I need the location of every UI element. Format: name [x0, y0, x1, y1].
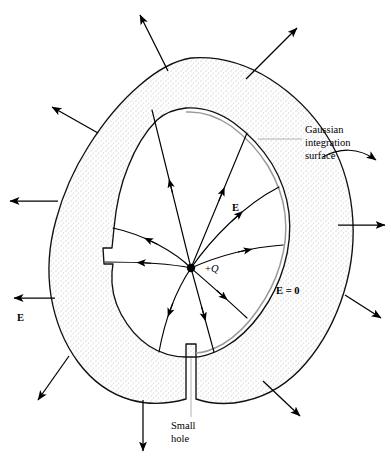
- charge-label: +Q: [205, 263, 219, 274]
- figure-root: Gaussian integration surface Small hole …: [0, 0, 391, 462]
- field-line-up-right-arrowhead: [219, 191, 223, 200]
- gaussian-label-line3: surface: [305, 150, 336, 161]
- field-line-upper-right-curve-arrowhead: [232, 214, 239, 221]
- small-hole-label-line2: hole: [171, 433, 189, 444]
- ext-arrow-top-right: [246, 28, 297, 79]
- ext-arrow-top-left: [140, 15, 168, 71]
- ext-arrow-lower-left: [38, 356, 69, 400]
- small-hole-label-line1: Small: [171, 420, 196, 431]
- e-field-label-outside: E: [17, 312, 24, 323]
- field-line-upper-right-curve: [191, 187, 279, 268]
- field-line-down-left: [159, 268, 191, 352]
- point-charge-dot: [187, 264, 195, 272]
- field-line-down-arrowhead: [202, 307, 205, 317]
- e-field-zero-label: E = 0: [276, 285, 300, 296]
- ext-arrow-upper-left: [52, 107, 98, 133]
- field-line-left-upper-arrowhead: [148, 240, 157, 244]
- physics-diagram-canvas: Gaussian integration surface Small hole …: [0, 0, 391, 462]
- field-line-left-arrowhead: [141, 263, 151, 264]
- ext-arrow-lower-right: [263, 381, 300, 416]
- gaussian-label-line2: integration: [305, 137, 351, 148]
- field-line-down-left-arrowhead: [169, 304, 172, 313]
- ext-arrow-right-lower: [345, 295, 381, 318]
- gaussian-label-line1: Gaussian: [305, 124, 344, 135]
- field-line-down-right-arrowhead: [217, 291, 224, 298]
- charge-symbol: Q: [211, 263, 219, 274]
- conducting-shell-body: [49, 58, 353, 404]
- field-line-up-left-arrowhead: [170, 183, 172, 193]
- e-field-label-inside: E: [232, 202, 239, 213]
